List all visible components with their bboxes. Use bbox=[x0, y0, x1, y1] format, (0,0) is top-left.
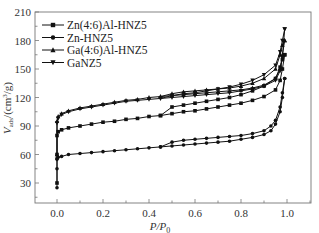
y-tick-label: 30 bbox=[20, 177, 32, 189]
legend-item: Ga(4:6)Al-HNZ5 bbox=[42, 44, 148, 57]
legend-item: Zn-HNZ5 bbox=[42, 32, 113, 44]
x-tick-label: 0.4 bbox=[142, 207, 156, 219]
series-zn-4-6-al-hnz5 bbox=[55, 53, 286, 185]
legend-label: Ga(4:6)Al-HNZ5 bbox=[67, 44, 148, 57]
legend-label: GaNZ5 bbox=[67, 57, 102, 69]
y-tick-label: 150 bbox=[15, 63, 32, 75]
legend-label: Zn-HNZ5 bbox=[67, 32, 113, 44]
legend: Zn(4:6)Al-HNZ5Zn-HNZ5Ga(4:6)Al-HNZ5GaNZ5 bbox=[42, 19, 148, 69]
y-axis-title-end: /g) bbox=[1, 82, 14, 95]
y-tick-label: 120 bbox=[15, 92, 32, 104]
adsorption-line bbox=[57, 55, 285, 183]
legend-item: Zn(4:6)Al-HNZ5 bbox=[42, 19, 147, 32]
x-tick-label: 0.8 bbox=[234, 207, 248, 219]
y-tick-label: 60 bbox=[20, 149, 32, 161]
x-tick-label: 0.6 bbox=[188, 207, 202, 219]
x-axis-title: P/P0 bbox=[149, 220, 171, 233]
x-tick-label: 0.0 bbox=[50, 207, 64, 219]
x-tick-label: 1.0 bbox=[280, 207, 294, 219]
y-tick-label: 90 bbox=[20, 120, 32, 132]
x-axis-title-main: P/P bbox=[149, 220, 167, 232]
x-tick-label: 0.2 bbox=[96, 207, 110, 219]
desorption-line bbox=[161, 29, 285, 98]
y-axis-title: Vads/(cm3/g) bbox=[1, 82, 15, 134]
y-axis-title-unit: /(cm bbox=[1, 97, 14, 118]
x-axis-title-sub: 0 bbox=[166, 226, 170, 233]
legend-label: Zn(4:6)Al-HNZ5 bbox=[67, 19, 147, 32]
y-tick-label: 180 bbox=[15, 35, 32, 47]
isotherm-chart: 0.00.20.40.60.81.0 306090120150180210 Zn… bbox=[0, 0, 319, 233]
y-axis-title-sub: ads bbox=[7, 118, 15, 128]
y-tick-label: 210 bbox=[15, 6, 32, 18]
x-axis-ticks: 0.00.20.40.60.81.0 bbox=[50, 199, 310, 219]
legend-item: GaNZ5 bbox=[42, 57, 102, 69]
